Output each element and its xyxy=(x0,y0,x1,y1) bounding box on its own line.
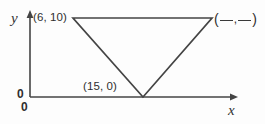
coordinate-plane-figure: y x 0 0 (6, 10) (15, 0) (,) xyxy=(0,0,265,124)
open-paren: ( xyxy=(214,11,219,27)
vertex-label-top-left: (6, 10) xyxy=(33,12,67,24)
origin-label-x-axis: 0 xyxy=(21,101,28,113)
blank-y-value[interactable] xyxy=(238,13,251,21)
blank-x-value[interactable] xyxy=(220,13,233,21)
x-axis-arrowhead-icon xyxy=(230,94,238,101)
vertex-label-top-right-blanks: (,) xyxy=(214,12,257,26)
pair-comma: , xyxy=(234,12,237,26)
vertex-label-bottom: (15, 0) xyxy=(83,81,117,93)
origin-label-y-axis: 0 xyxy=(17,88,24,100)
x-axis xyxy=(30,94,238,101)
x-axis-label: x xyxy=(228,103,235,118)
close-paren: ) xyxy=(252,11,257,27)
y-axis-label: y xyxy=(11,11,18,26)
